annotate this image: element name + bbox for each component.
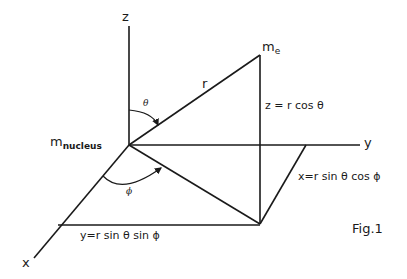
z-axis-label: z [122, 10, 129, 23]
nucleus-label: mnucleus [50, 135, 102, 151]
radius-label: r [202, 77, 207, 90]
electron-mass-symbol: m [262, 39, 275, 54]
electron-label: me [262, 40, 280, 56]
nucleus-mass-symbol: m [50, 134, 63, 149]
xy-projection-line [129, 145, 260, 224]
phi-arc [103, 168, 161, 184]
x-equation: x=r sin θ cos ϕ [298, 171, 381, 182]
y-axis-label: y [364, 136, 372, 149]
electron-subscript: e [275, 46, 281, 56]
y-equation: y=r sin θ sin ϕ [80, 230, 160, 241]
x-component-line [260, 145, 306, 224]
x-axis-label: x [22, 256, 30, 269]
theta-label: θ [143, 99, 148, 108]
nucleus-subscript: nucleus [63, 141, 102, 151]
figure-caption: Fig.1 [352, 222, 383, 235]
phi-label: ϕ [126, 187, 132, 196]
radius-vector [129, 55, 260, 145]
z-equation: z = r cos θ [265, 100, 324, 111]
theta-arc [129, 110, 158, 125]
